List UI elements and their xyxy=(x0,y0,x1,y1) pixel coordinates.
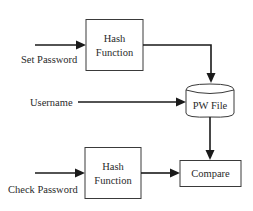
compare-label: Compare xyxy=(191,168,230,179)
username-arrow xyxy=(78,98,186,107)
hash-function-bottom: Hash Function xyxy=(85,148,141,199)
username-label: Username xyxy=(30,97,73,108)
check-password-arrow xyxy=(35,169,85,178)
set-password-arrow xyxy=(35,41,86,50)
hash-bottom-line1: Hash xyxy=(102,161,124,172)
hash-bottom-line2: Function xyxy=(94,175,132,186)
pw-file-label: PW File xyxy=(193,100,228,111)
hash-to-compare-arrow xyxy=(141,169,180,178)
password-flow-diagram: Set Password Hash Function PW File Usern… xyxy=(0,0,253,211)
hash-to-pwfile-arrow xyxy=(143,45,216,83)
compare-box: Compare xyxy=(180,161,241,187)
hash-top-line1: Hash xyxy=(104,33,126,44)
hash-top-line2: Function xyxy=(96,47,134,58)
check-password-label: Check Password xyxy=(8,184,78,195)
pwfile-to-compare-arrow xyxy=(206,117,215,160)
hash-function-top: Hash Function xyxy=(86,20,143,71)
set-password-label: Set Password xyxy=(21,54,78,65)
pw-file-cylinder: PW File xyxy=(186,84,234,117)
